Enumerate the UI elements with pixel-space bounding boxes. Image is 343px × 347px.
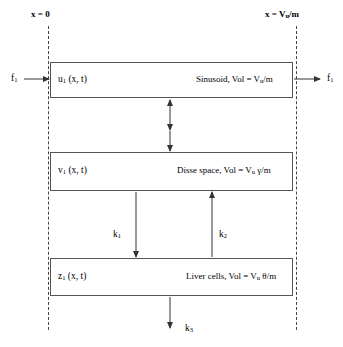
disse-space-description-label: Disse space, Vol = Vu γ/m bbox=[177, 166, 271, 176]
left-boundary-label: x = 0 bbox=[31, 10, 50, 19]
liver-cells-description-label: Liver cells, Vol = Vu θ/m bbox=[186, 272, 276, 282]
disse-space-variable-label: v1 (x, t) bbox=[58, 166, 87, 176]
outflow-label: f1 bbox=[327, 74, 333, 84]
rate-label-k2: k2 bbox=[219, 230, 227, 240]
right-boundary-label: x = Vu/m bbox=[265, 10, 299, 20]
rate-label-k3: k3 bbox=[185, 324, 193, 334]
left-boundary-line bbox=[48, 26, 49, 330]
sinusoid-variable-label: u1 (x, t) bbox=[58, 75, 87, 85]
rate-label-k1: k1 bbox=[113, 230, 121, 240]
right-boundary-line bbox=[296, 26, 297, 330]
liver-cells-variable-label: z1 (x, t) bbox=[58, 272, 86, 282]
sinusoid-description-label: Sinusoid, Vol = Vu/m bbox=[196, 75, 273, 85]
liver-compartment-diagram: x = 0 x = Vu/m u1 (x, t) Sinusoid, Vol =… bbox=[0, 0, 343, 347]
inflow-label: f1 bbox=[11, 74, 17, 84]
